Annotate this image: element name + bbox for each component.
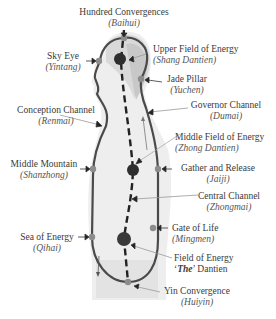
yuchen-point [138, 76, 144, 82]
label-baihui: Hundred Convergences (Baihui) [76, 7, 172, 28]
label-zhong-dantien: Middle Field of Energy (Zhong Dantien) [175, 132, 264, 153]
lower-dantien-dot [117, 232, 131, 246]
yintang-point [96, 58, 102, 64]
energy-channel-diagram: Hundred Convergences (Baihui) Sky Eye (Y… [0, 0, 276, 319]
label-qihai: Sea of Energy (Qihai) [16, 232, 78, 253]
label-mingmen: Gate of Life (Mingmen) [172, 223, 218, 244]
label-dumai: Governor Channel (Dumai) [186, 100, 266, 121]
label-zhongmai: Central Channel (Zhongmai) [196, 191, 262, 212]
label-yintang: Sky Eye (Yintang) [38, 51, 88, 72]
label-shang-dantien: Upper Field of Energy (Shang Dantien) [153, 44, 239, 65]
label-baihui-cn: (Baihui) [76, 18, 172, 29]
huiyin-point [125, 279, 131, 285]
shanzhong-point [90, 166, 96, 172]
label-shanzhong: Middle Mountain (Shanzhong) [8, 159, 80, 180]
label-renmai: Conception Channel (Renmai) [10, 105, 102, 126]
label-jaiji: Gather and Release (Jaiji) [178, 163, 258, 184]
jaiji-point [155, 166, 161, 172]
middle-dantien-dot [127, 164, 139, 176]
qihai-point [89, 234, 95, 240]
label-lower-dantien: Field of Energy ‘The’ Dantien [174, 253, 233, 274]
label-yuchen: Jade Pillar (Yuchen) [162, 74, 212, 95]
mingmen-point [150, 225, 156, 231]
label-huiyin: Yin Convergence (Huiyin) [160, 286, 234, 307]
upper-dantien-dot [114, 53, 126, 65]
